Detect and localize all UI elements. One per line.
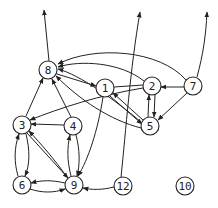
edge-1-9: [78, 97, 103, 176]
edge-1-5: [110, 96, 142, 124]
edge-3-8: [26, 78, 43, 116]
edge-2-3: [30, 88, 143, 120]
node-label: 6: [19, 179, 26, 192]
node-7[interactable]: 7: [184, 77, 202, 95]
edge-12-9: [83, 187, 114, 189]
edge-3-9: [27, 133, 68, 178]
node-1[interactable]: 1: [96, 79, 114, 97]
node-label: 10: [178, 180, 191, 193]
node-label: 3: [19, 119, 26, 132]
node-9[interactable]: 9: [65, 176, 83, 194]
edge-4-8: [52, 79, 71, 117]
edge-9-6: [31, 181, 65, 183]
node-label: 12: [116, 180, 129, 193]
edge-7-out: [197, 12, 207, 77]
directed-graph: 8 1 2 7 5 3 4 6 9 12 10: [0, 0, 218, 208]
edge-8-1: [57, 74, 96, 86]
node-label: 4: [70, 120, 77, 133]
node-8[interactable]: 8: [39, 61, 57, 79]
node-label: 1: [102, 82, 109, 95]
node-5[interactable]: 5: [141, 117, 159, 135]
node-3[interactable]: 3: [13, 116, 31, 134]
node-10[interactable]: 10: [176, 177, 194, 195]
edge-6-3: [15, 134, 19, 176]
edge-7-8: [58, 53, 186, 80]
edge-2-5: [154, 95, 155, 117]
node-12[interactable]: 12: [114, 177, 132, 195]
node-6[interactable]: 6: [13, 176, 31, 194]
node-label: 9: [71, 179, 78, 192]
edge-12-out: [121, 12, 140, 177]
edge-5-2: [148, 95, 149, 117]
node-label: 8: [45, 64, 52, 77]
edge-5-1: [113, 93, 143, 120]
edge-2-1: [114, 85, 143, 87]
edge-4-9: [76, 135, 79, 176]
edge-9-4: [68, 135, 71, 176]
node-label: 5: [147, 120, 154, 133]
node-label: 2: [149, 80, 156, 93]
node-2[interactable]: 2: [143, 77, 161, 95]
edge-3-6: [25, 134, 29, 176]
edge-7-5: [158, 93, 187, 120]
edge-4-3: [31, 124, 64, 125]
node-label: 7: [190, 80, 197, 93]
edges: [15, 10, 207, 192]
edge-6-9: [30, 189, 65, 192]
node-4[interactable]: 4: [64, 117, 82, 135]
edge-8-out: [44, 10, 49, 61]
